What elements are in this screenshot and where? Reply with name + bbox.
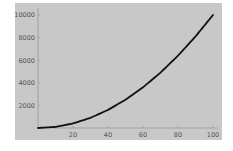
y-tick-label: 8000	[18, 34, 35, 42]
x-tick-label: 40	[104, 131, 112, 139]
plot-background	[15, 3, 222, 140]
y-tick-label: 2000	[18, 102, 35, 110]
y-tick-label: 6000	[18, 57, 35, 65]
x-tick-label: 80	[174, 131, 182, 139]
chart: 200040006000800010000 20406080100	[0, 0, 233, 151]
x-tick-label: 100	[207, 131, 219, 139]
y-tick-label: 10000	[14, 11, 35, 19]
x-tick-label: 60	[139, 131, 147, 139]
y-tick-label: 4000	[18, 79, 35, 87]
x-tick-label: 20	[69, 131, 77, 139]
